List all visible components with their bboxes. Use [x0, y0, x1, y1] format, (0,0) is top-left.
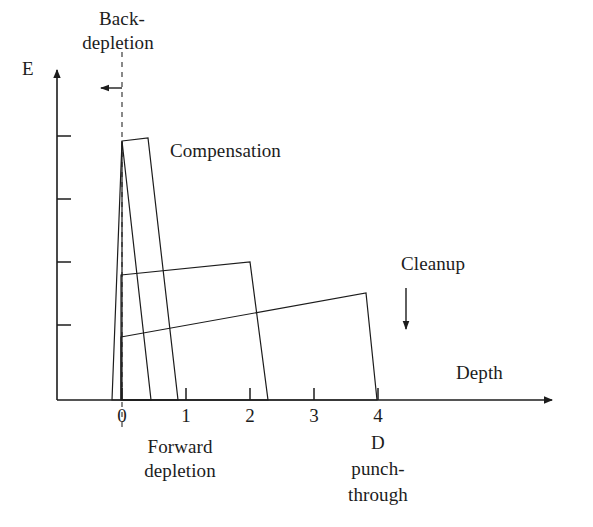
back-depletion-label-line2: depletion	[82, 32, 154, 53]
x-tick-label-1: 1	[181, 405, 191, 426]
d-punch-through-label-line3: through	[348, 484, 408, 505]
d-punch-through-label-line1: D	[371, 432, 385, 453]
x-axis-label: Depth	[456, 362, 503, 383]
x-tick-label-4: 4	[373, 405, 383, 426]
profile-spike	[112, 141, 151, 400]
x-axis-ticks	[122, 388, 378, 400]
energy-depth-diagram: E Depth 0 1 2 3 4 Back- depletion Compen…	[0, 0, 593, 527]
compensation-label: Compensation	[170, 140, 281, 161]
x-tick-label-3: 3	[309, 405, 319, 426]
y-axis-label: E	[22, 58, 34, 79]
forward-depletion-label-line2: depletion	[144, 460, 216, 481]
cleanup-label: Cleanup	[401, 253, 465, 274]
x-tick-label-0: 0	[117, 405, 127, 426]
y-axis-ticks	[57, 136, 71, 325]
forward-depletion-label-line1: Forward	[147, 436, 212, 457]
plot-canvas	[0, 0, 593, 527]
d-punch-through-label-line2: punch-	[351, 458, 404, 479]
profile-cleanup	[121, 293, 377, 400]
profile-compensation	[122, 138, 178, 400]
back-depletion-label-line1: Back-	[99, 8, 145, 29]
x-tick-label-2: 2	[245, 405, 255, 426]
